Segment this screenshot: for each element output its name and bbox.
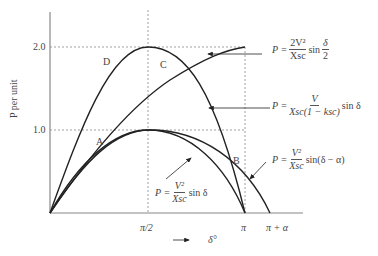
equation-ksc: P = VXsc(1 − ksc) sin δ <box>272 94 361 117</box>
eq3-num: V² <box>291 148 302 160</box>
x-axis-label: δ° <box>208 234 217 245</box>
eq4-num: V² <box>174 181 185 193</box>
eq1-den: Xsc <box>290 50 306 61</box>
eq2-num: V <box>310 94 318 106</box>
y-axis-label: P per unit <box>8 79 19 118</box>
eq4-den: Xsc <box>172 193 186 204</box>
eq1-tail-num: δ <box>322 38 329 50</box>
reference-lines <box>50 10 245 213</box>
eq2-lhs: P = <box>272 100 287 111</box>
eq3-lhs: P = <box>272 154 287 165</box>
eq1-lhs: P = <box>272 44 287 55</box>
arrows <box>166 54 270 240</box>
y-tick-1: 1.0 <box>33 124 46 135</box>
eq2-den: Xsc(1 − ksc) <box>289 106 340 117</box>
y-tick-2: 2.0 <box>33 41 46 52</box>
eq1-tail: sin <box>308 44 320 55</box>
label-B: B <box>233 155 240 166</box>
equation-shifted: P = V²Xsc sin(δ − α) <box>272 148 345 171</box>
label-D: D <box>103 56 110 67</box>
eq4-lhs: P = <box>155 187 170 198</box>
eq1-tail-den: 2 <box>323 50 328 61</box>
equation-half-angle: P = 2V²Xsc sin δ2 <box>272 38 331 61</box>
label-A: A <box>96 136 103 147</box>
x-tick-pi: π <box>241 222 246 233</box>
eq4-tail: sin δ <box>189 187 208 198</box>
eq1-num: 2V² <box>289 38 306 50</box>
eq2-tail: sin δ <box>342 100 361 111</box>
equation-basic: P = V²Xsc sin δ <box>155 181 208 204</box>
x-tick-half-pi: π/2 <box>140 222 153 233</box>
eq3-den: Xsc <box>289 160 303 171</box>
eq3-tail: sin(δ − α) <box>306 154 345 165</box>
x-tick-pi-alpha: π + α <box>266 222 288 233</box>
label-C: C <box>160 59 167 70</box>
